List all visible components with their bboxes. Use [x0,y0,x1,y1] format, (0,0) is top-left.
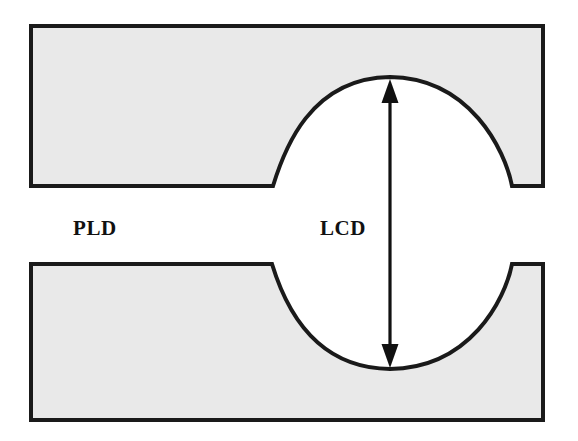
lcd-label: LCD [320,216,366,241]
pld-label: PLD [73,216,117,241]
diagram-canvas: PLD LCD [0,0,578,441]
arrow-down-icon [382,344,399,368]
arrow-up-icon [382,79,399,103]
upper-block-shape [31,26,543,186]
lower-block-shape [31,264,543,420]
